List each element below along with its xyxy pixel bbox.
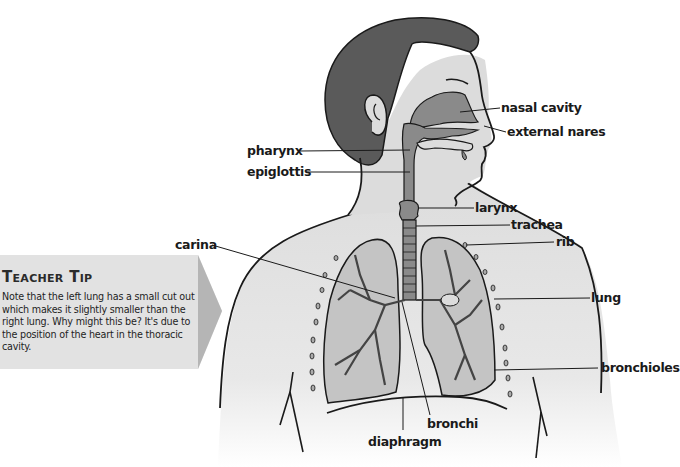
- label-carina: carina: [175, 237, 217, 252]
- label-pharynx: pharynx: [247, 143, 302, 158]
- teacher-tip-body: Note that the left lung has a small cut …: [2, 291, 202, 354]
- label-bronchioles: bronchioles: [601, 360, 680, 375]
- label-bronchi: bronchi: [427, 416, 478, 431]
- label-diaphragm: diaphragm: [368, 434, 441, 449]
- label-larynx: larynx: [475, 200, 517, 215]
- label-lung: lung: [591, 290, 621, 305]
- teacher-tip-title: Teacher Tip: [2, 268, 92, 286]
- label-nasal-cavity: nasal cavity: [501, 100, 582, 115]
- torso: [218, 170, 622, 467]
- label-external-nares: external nares: [507, 124, 605, 139]
- label-epiglottis: epiglottis: [247, 164, 311, 179]
- label-rib: rib: [556, 234, 575, 249]
- label-trachea: trachea: [511, 217, 563, 232]
